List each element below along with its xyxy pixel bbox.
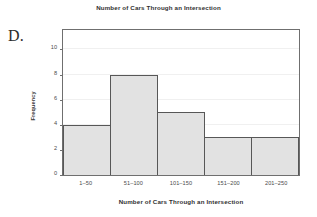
y-axis-title-text: Frequency <box>30 91 36 120</box>
y-tick-label: 10 <box>45 44 57 50</box>
y-tick-label: 2 <box>45 145 57 151</box>
x-tick-label: 51–100 <box>110 180 158 186</box>
plot-area <box>63 30 299 175</box>
bar <box>204 137 252 175</box>
chart-title: Number of Cars Through an Intersection <box>0 4 317 11</box>
x-axis-tick-group: 1–5051–100101–150151–200201–250 <box>62 180 300 186</box>
bar <box>63 125 111 175</box>
bar <box>251 137 299 175</box>
y-axis-title: Frequency <box>26 76 40 136</box>
bar <box>157 112 205 175</box>
y-axis-tick-group: 0246810 <box>46 29 62 176</box>
y-tick-label: 0 <box>45 170 57 176</box>
y-tick-label: 8 <box>45 70 57 76</box>
chart-page: D. Number of Cars Through an Intersectio… <box>0 0 317 217</box>
x-tick-label: 201–250 <box>252 180 300 186</box>
plot-frame <box>62 29 300 176</box>
panel-letter: D. <box>8 27 24 45</box>
y-tick-label: 6 <box>45 95 57 101</box>
x-axis-title: Number of Cars Through an Intersection <box>62 198 300 205</box>
bar-series <box>63 30 299 175</box>
bar <box>110 75 158 176</box>
x-tick-label: 1–50 <box>62 180 110 186</box>
x-tick-label: 151–200 <box>205 180 253 186</box>
x-tick-label: 101–150 <box>157 180 205 186</box>
y-tick-label: 4 <box>45 120 57 126</box>
